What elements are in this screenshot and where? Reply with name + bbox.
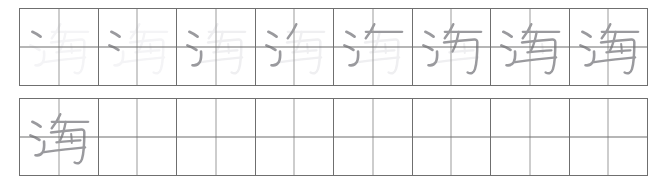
character-glyph	[177, 99, 255, 175]
horizontal-center-guide	[20, 47, 98, 48]
vertical-center-guide	[608, 9, 609, 85]
horizontal-center-guide	[570, 47, 648, 48]
horizontal-center-guide	[177, 47, 255, 48]
horizontal-center-guide	[491, 47, 569, 48]
practice-row	[19, 98, 648, 176]
stroke-order-row	[19, 8, 648, 86]
practice-cell-2[interactable]	[99, 99, 178, 175]
practice-cell-3[interactable]	[177, 99, 256, 175]
character-glyph	[20, 9, 98, 85]
vertical-center-guide	[215, 9, 216, 85]
horizontal-center-guide	[99, 137, 177, 138]
vertical-center-guide	[608, 99, 609, 175]
character-glyph	[20, 99, 98, 175]
horizontal-center-guide	[256, 47, 334, 48]
horizontal-center-guide	[99, 47, 177, 48]
character-glyph	[413, 9, 491, 85]
character-glyph	[413, 99, 491, 175]
character-glyph	[570, 9, 648, 85]
vertical-center-guide	[137, 9, 138, 85]
vertical-center-guide	[451, 9, 452, 85]
vertical-center-guide	[137, 99, 138, 175]
stroke-order-cell-2[interactable]	[99, 9, 178, 85]
horizontal-center-guide	[570, 137, 648, 138]
horizontal-center-guide	[491, 137, 569, 138]
stroke-order-cell-5[interactable]	[334, 9, 413, 85]
vertical-center-guide	[529, 9, 530, 85]
vertical-center-guide	[529, 99, 530, 175]
horizontal-center-guide	[334, 137, 412, 138]
stroke-order-cell-4[interactable]	[256, 9, 335, 85]
character-glyph	[334, 9, 412, 85]
character-glyph	[334, 99, 412, 175]
character-glyph	[99, 99, 177, 175]
stroke-order-cell-3[interactable]	[177, 9, 256, 85]
stroke-order-worksheet	[0, 0, 663, 186]
practice-cell-1[interactable]	[20, 99, 99, 175]
character-glyph	[570, 99, 648, 175]
horizontal-center-guide	[334, 47, 412, 48]
practice-cell-4[interactable]	[256, 99, 335, 175]
character-glyph	[256, 99, 334, 175]
stroke-order-cell-7[interactable]	[491, 9, 570, 85]
horizontal-center-guide	[256, 137, 334, 138]
practice-cell-5[interactable]	[334, 99, 413, 175]
vertical-center-guide	[58, 99, 59, 175]
character-glyph	[177, 9, 255, 85]
stroke-order-cell-1[interactable]	[20, 9, 99, 85]
character-glyph	[491, 9, 569, 85]
character-glyph	[256, 9, 334, 85]
horizontal-center-guide	[177, 137, 255, 138]
stroke-order-cell-6[interactable]	[413, 9, 492, 85]
vertical-center-guide	[294, 99, 295, 175]
vertical-center-guide	[58, 9, 59, 85]
character-glyph	[99, 9, 177, 85]
practice-cell-6[interactable]	[413, 99, 492, 175]
vertical-center-guide	[372, 9, 373, 85]
practice-cell-8[interactable]	[570, 99, 648, 175]
vertical-center-guide	[294, 9, 295, 85]
vertical-center-guide	[215, 99, 216, 175]
stroke-order-cell-8[interactable]	[570, 9, 648, 85]
horizontal-center-guide	[413, 47, 491, 48]
horizontal-center-guide	[20, 137, 98, 138]
vertical-center-guide	[451, 99, 452, 175]
character-glyph	[491, 99, 569, 175]
practice-cell-7[interactable]	[491, 99, 570, 175]
vertical-center-guide	[372, 99, 373, 175]
horizontal-center-guide	[413, 137, 491, 138]
